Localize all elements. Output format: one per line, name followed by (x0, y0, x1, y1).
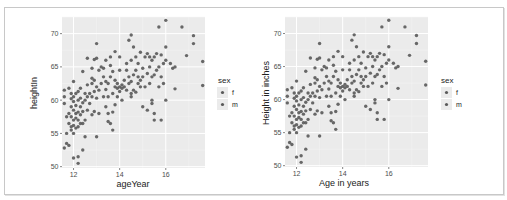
x-axis-title: Age in years (319, 178, 370, 188)
svg-text:60: 60 (51, 97, 59, 104)
point-icon (221, 103, 224, 106)
y-axis-title: heightIn (29, 77, 39, 109)
svg-text:50: 50 (274, 162, 282, 169)
x-axis-title: ageYear (116, 179, 149, 189)
legend-label-m: m (232, 101, 238, 108)
scatter-figure: 1214165055606570 ageYear heightIn sex f … (0, 0, 507, 200)
point-icon (445, 91, 448, 94)
svg-text:12: 12 (293, 170, 301, 177)
legend-label-f: f (456, 89, 458, 96)
point-icon (445, 103, 448, 106)
svg-text:50: 50 (51, 163, 59, 170)
point-icon (221, 91, 224, 94)
svg-text:60: 60 (274, 96, 282, 103)
svg-text:55: 55 (51, 130, 59, 137)
plot-background (285, 17, 428, 167)
y-axis-title: Height in inches (261, 60, 271, 125)
svg-text:14: 14 (339, 170, 347, 177)
legend: sex f m (217, 76, 238, 110)
svg-text:65: 65 (274, 63, 282, 70)
legend-label-f: f (232, 89, 234, 96)
svg-text:65: 65 (51, 63, 59, 70)
svg-text:55: 55 (274, 129, 282, 136)
legend-title: sex (218, 76, 230, 85)
left-scatter-panel: 1214165055606570 ageYear heightIn sex f … (29, 17, 238, 189)
svg-text:14: 14 (116, 171, 124, 178)
plot-background (62, 17, 205, 168)
svg-text:70: 70 (274, 30, 282, 37)
legend-label-m: m (456, 101, 462, 108)
right-scatter-panel: 1214165055606570 Age in years Height in … (261, 17, 462, 188)
svg-text:12: 12 (70, 171, 78, 178)
legend-title: sex (441, 76, 453, 85)
svg-text:16: 16 (385, 170, 393, 177)
svg-text:70: 70 (51, 30, 59, 37)
legend: sex f m (441, 76, 462, 110)
svg-text:16: 16 (162, 171, 170, 178)
